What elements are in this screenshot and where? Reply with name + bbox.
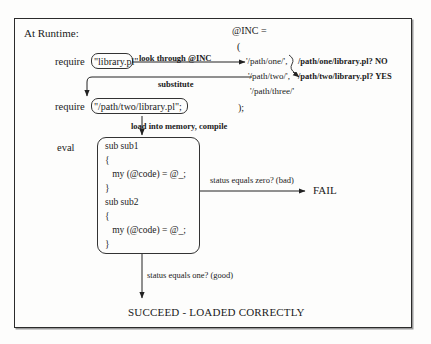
code-line: { xyxy=(105,212,110,222)
inc-open-paren: ( xyxy=(237,42,240,52)
code-line: sub sub1 xyxy=(105,142,139,152)
eval-keyword: eval xyxy=(57,143,75,154)
code-line: { xyxy=(105,156,110,166)
code-line: sub sub2 xyxy=(105,198,139,208)
code-line: } xyxy=(105,240,110,250)
succeed-label: SUCCEED - LOADED CORRECTLY xyxy=(128,307,305,318)
code-line: my (@code) = @_; xyxy=(105,226,186,236)
figure-title-label: At Runtime: xyxy=(24,28,79,39)
inc-close-paren: ); xyxy=(238,103,244,113)
probe-result-two: /path/two/library.pl? YES xyxy=(298,71,392,81)
code-line: } xyxy=(105,184,110,194)
inc-header-label: @INC = xyxy=(232,26,267,36)
edge-look-through-label: look through @INC xyxy=(139,53,211,63)
inc-entry: '/path/two/', xyxy=(248,72,290,81)
require-keyword-1: require xyxy=(55,57,85,68)
edge-status-zero-label: status equals zero? (bad) xyxy=(210,176,294,185)
fail-label: FAIL xyxy=(313,185,337,196)
edge-load-compile-label: load into memory, compile xyxy=(131,121,227,131)
inc-entry: '/path/three/' xyxy=(250,87,294,96)
eval-code-box xyxy=(97,137,200,254)
figure-page: look through @INC --> @INC list --> load… xyxy=(0,0,431,344)
edge-status-one-label: status equals one? (good) xyxy=(147,271,233,280)
require-value-1: "library.pl" xyxy=(94,57,138,67)
require-keyword-2: require xyxy=(55,102,85,113)
inc-entry: '/path/one/', xyxy=(246,57,287,66)
code-line: my (@code) = @_; xyxy=(105,170,186,180)
require-value-2: "/path/two/library.pl"; xyxy=(94,102,182,112)
edge-substitute-label: substitute xyxy=(158,79,193,89)
probe-result-one: /path/one/library.pl? NO xyxy=(298,56,388,66)
